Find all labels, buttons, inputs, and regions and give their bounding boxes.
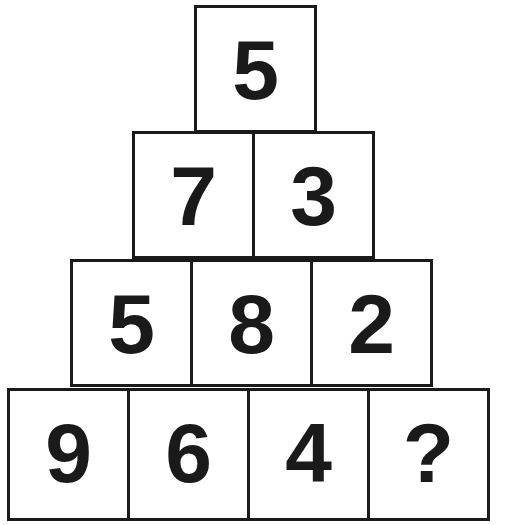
pyramid-row-3: 5 8 2 [70, 259, 433, 387]
number-pyramid: 5 7 3 5 8 2 9 6 4 ? [0, 0, 518, 525]
cell-number: 6 [165, 411, 212, 495]
pyramid-cell: 5 [194, 5, 317, 133]
pyramid-cell: 3 [252, 131, 375, 259]
pyramid-row-2: 7 3 [132, 131, 375, 259]
pyramid-cell: 6 [127, 388, 250, 521]
pyramid-cell: 8 [190, 259, 313, 387]
pyramid-row-4: 9 6 4 ? [7, 388, 490, 521]
pyramid-cell: 4 [247, 388, 370, 521]
pyramid-cell: 7 [132, 131, 255, 259]
cell-number: 5 [108, 282, 155, 366]
cell-number: 8 [228, 282, 275, 366]
pyramid-row-1: 5 [194, 5, 317, 133]
pyramid-cell: 2 [310, 259, 433, 387]
pyramid-cell-unknown: ? [367, 388, 490, 521]
pyramid-cell: 9 [7, 388, 130, 521]
cell-number: 7 [170, 154, 217, 238]
cell-number: 3 [290, 154, 337, 238]
cell-number: 9 [45, 411, 92, 495]
cell-number: 2 [348, 282, 395, 366]
pyramid-cell: 5 [70, 259, 193, 387]
cell-number: 5 [232, 28, 279, 112]
cell-number: 4 [285, 411, 332, 495]
question-mark: ? [403, 411, 454, 495]
